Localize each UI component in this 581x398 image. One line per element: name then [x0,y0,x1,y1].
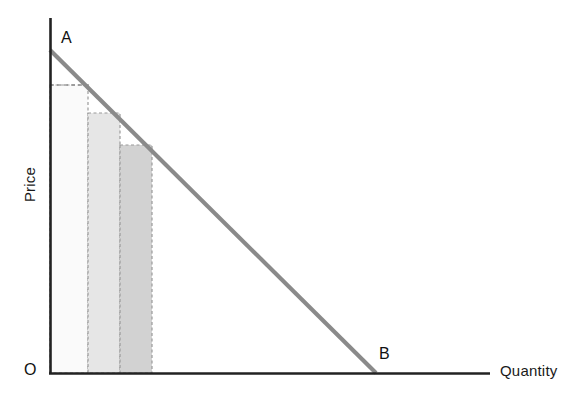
origin-label: O [24,361,36,379]
revenue-rectangles [50,85,152,373]
y-axis-title: Price [21,153,38,217]
revenue-rect-2 [88,113,120,373]
demand-curve-chart: A B O Price Quantity [0,0,581,398]
point-label-a: A [61,29,72,47]
point-label-b: B [379,345,390,363]
revenue-rect-1 [50,85,88,373]
revenue-rect-3 [120,145,152,373]
x-axis-title: Quantity [500,362,557,379]
chart-plot-area [0,0,581,398]
